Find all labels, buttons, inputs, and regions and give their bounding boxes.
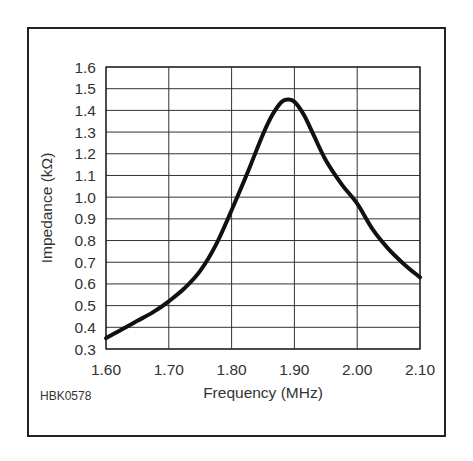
x-tick-label: 1.80: [217, 361, 248, 378]
y-tick-label: 0.7: [74, 254, 96, 271]
y-tick-labels: 0.30.40.50.60.70.80.91.01.11.21.31.41.51…: [74, 59, 96, 358]
y-tick-label: 0.6: [74, 275, 96, 292]
figure-code: HBK0578: [40, 389, 92, 403]
x-tick-labels: 1.601.701.801.902.002.10: [91, 361, 436, 378]
y-tick-label: 0.3: [74, 341, 96, 358]
x-tick-label: 1.90: [279, 361, 310, 378]
y-tick-label: 1.5: [74, 80, 96, 97]
y-tick-label: 1.3: [74, 124, 96, 141]
y-tick-label: 1.6: [74, 59, 96, 76]
y-tick-label: 1.2: [74, 145, 96, 162]
y-tick-label: 0.9: [74, 210, 96, 227]
x-tick-label: 2.00: [342, 361, 373, 378]
grid-lines: [106, 67, 420, 349]
y-tick-label: 1.0: [74, 189, 96, 206]
y-tick-label: 1.1: [74, 167, 96, 184]
x-tick-label: 1.70: [154, 361, 185, 378]
impedance-chart: 0.30.40.50.60.70.80.91.01.11.21.31.41.51…: [0, 0, 473, 461]
x-axis-label: Frequency (MHz): [203, 384, 323, 401]
plot-area: [106, 67, 420, 349]
x-tick-label: 1.60: [91, 361, 122, 378]
y-axis-label: Impedance (kΩ): [38, 153, 55, 264]
y-tick-label: 0.5: [74, 297, 96, 314]
y-tick-label: 0.8: [74, 232, 96, 249]
y-tick-label: 1.4: [74, 102, 96, 119]
x-tick-label: 2.10: [405, 361, 436, 378]
y-tick-label: 0.4: [74, 319, 96, 336]
